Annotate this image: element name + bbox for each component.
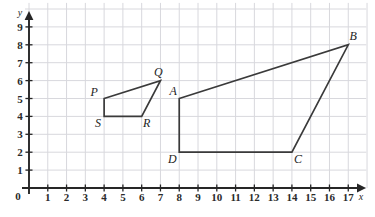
- x-tick-label-2: 2: [64, 191, 70, 203]
- vertex-label-A: A: [169, 84, 178, 98]
- y-tick-label-6: 6: [17, 75, 23, 87]
- x-tick-label-5: 5: [120, 191, 126, 203]
- vertex-label-P: P: [89, 85, 98, 99]
- vertex-label-S: S: [95, 116, 101, 130]
- x-tick-label-15: 15: [305, 191, 317, 203]
- x-tick-label-17: 17: [343, 191, 355, 203]
- x-tick-label-6: 6: [139, 191, 145, 203]
- x-tick-label-1: 1: [45, 191, 51, 203]
- axis-names: xy: [17, 7, 364, 202]
- y-tick-label-2: 2: [17, 146, 23, 158]
- vertex-label-B: B: [350, 29, 358, 43]
- coordinate-grid-figure: 01234567891011121314151617123456789 PQRS…: [0, 0, 375, 217]
- point-labels: PQRSABCD: [89, 29, 357, 166]
- y-tick-label-3: 3: [17, 128, 23, 140]
- x-tick-label-13: 13: [268, 191, 280, 203]
- x-tick-label-7: 7: [158, 191, 164, 203]
- x-tick-label-9: 9: [195, 191, 201, 203]
- figure-canvas: 01234567891011121314151617123456789 PQRS…: [0, 0, 375, 217]
- vertex-label-Q: Q: [154, 65, 163, 79]
- x-tick-label-11: 11: [230, 191, 240, 203]
- vertex-label-R: R: [142, 116, 151, 130]
- y-tick-label-9: 9: [17, 21, 23, 33]
- y-tick-label-4: 4: [17, 110, 23, 122]
- tick-marks: [26, 27, 349, 192]
- grid-lines: [25, 3, 367, 188]
- y-axis-arrowhead: [25, 11, 34, 20]
- x-axis-name: x: [358, 191, 364, 202]
- x-tick-label-12: 12: [249, 191, 261, 203]
- vertex-label-C: C: [294, 152, 303, 166]
- x-tick-label-8: 8: [176, 191, 182, 203]
- x-tick-label-14: 14: [286, 191, 298, 203]
- axes: [22, 11, 366, 194]
- x-tick-label-10: 10: [211, 191, 223, 203]
- y-tick-label-8: 8: [17, 39, 23, 51]
- x-tick-label-0: 0: [15, 190, 21, 202]
- y-axis-name: y: [17, 7, 23, 18]
- y-tick-label-1: 1: [17, 164, 23, 176]
- x-tick-label-4: 4: [101, 191, 107, 203]
- x-tick-label-16: 16: [324, 191, 336, 203]
- vertex-label-D: D: [167, 152, 177, 166]
- x-tick-label-3: 3: [83, 191, 89, 203]
- y-tick-label-7: 7: [17, 57, 23, 69]
- y-tick-label-5: 5: [17, 93, 23, 105]
